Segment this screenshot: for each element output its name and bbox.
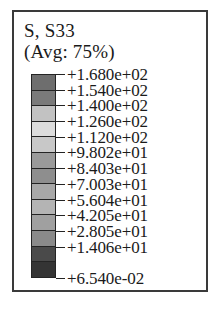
colorbar-tick: [56, 137, 65, 138]
colorbar-band: [32, 137, 55, 153]
colorbar-value-labels: +1.680e+02+1.540e+02+1.400e+02+1.260e+02…: [67, 74, 197, 278]
colorbar-band: [32, 262, 55, 277]
colorbar-tick: [56, 184, 65, 185]
colorbar-band: [32, 153, 55, 169]
colorbar-band: [32, 215, 55, 231]
colorbar-value-label: +6.540e-02: [67, 270, 144, 287]
colorbar-band: [32, 231, 55, 247]
colorbar-tick: [56, 247, 65, 248]
colorbar-tick: [56, 152, 65, 153]
colorbar-band: [32, 247, 55, 263]
colorbar-tick: [56, 90, 65, 91]
colorbar-tick: [56, 121, 65, 122]
colorbar-band: [32, 106, 55, 122]
colorbar-band: [32, 200, 55, 216]
colorbar-band: [32, 75, 55, 91]
colorbar-tick: [56, 168, 65, 169]
colorbar-tick: [56, 200, 65, 201]
legend-subtitle: (Avg: 75%): [24, 41, 194, 62]
contour-legend: S, S33 (Avg: 75%) +1.680e+02+1.540e+02+1…: [0, 0, 220, 312]
colorbar-value-label: +1.406e+01: [67, 239, 148, 256]
colorbar-band: [32, 169, 55, 185]
colorbar-band: [32, 184, 55, 200]
colorbar-tick: [56, 215, 65, 216]
colorbar-tick: [56, 231, 65, 232]
colorbar-tick: [56, 278, 65, 279]
colorbar-tick: [56, 74, 65, 75]
page-title: S, S33: [24, 20, 194, 41]
colorbar-band: [32, 122, 55, 138]
colorbar: [31, 74, 56, 278]
colorbar-tick: [56, 105, 65, 106]
colorbar-tick-marks: [56, 74, 66, 278]
colorbar-band: [32, 91, 55, 107]
legend-title-block: S, S33 (Avg: 75%): [24, 20, 194, 62]
